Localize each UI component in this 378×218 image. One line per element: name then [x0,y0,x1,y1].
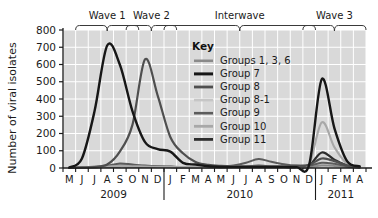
x-axis-tick-label: J [244,174,248,185]
legend-item-label: Group 9 [220,107,260,118]
x-axis-tick-label: J [92,174,96,185]
x-axis-tick-label: J [231,174,235,185]
x-axis-tick-label: A [356,174,363,185]
viral-isolates-line-chart: 0100200300400500600700800 MJJASONDJFMAMJ… [0,0,378,218]
x-axis-tick-label: J [319,174,323,185]
x-axis-tick-label: N [293,174,300,185]
y-axis-tick-label: 100 [36,144,56,156]
legend-item-label: Group 8-1 [220,94,270,105]
y-axis-tick-label: 300 [36,110,56,122]
year-label: 2011 [327,188,354,200]
wave-label: Wave 2 [133,10,170,21]
year-label: 2009 [100,188,127,200]
x-axis-tick-label: D [305,174,313,185]
x-axis-tick-label: A [205,174,212,185]
x-axis-tick-label: M [343,174,352,185]
x-axis-tick-label: A [255,174,262,185]
y-axis-tick-label: 0 [49,162,56,174]
legend-title: Key [192,40,214,52]
legend-item-label: Group 7 [220,68,260,79]
year-label: 2010 [226,188,253,200]
legend-item-label: Groups 1, 3, 6 [220,55,291,66]
y-axis-tick-label: 200 [36,127,56,139]
x-axis-tick-label: S [117,174,123,185]
wave-label: Wave 1 [89,10,126,21]
wave-label: Wave 3 [316,10,353,21]
y-axis-tick-label: 500 [36,75,56,87]
y-axis-title: Number of viral isolates [6,42,19,174]
x-axis-tick-label: F [332,174,338,185]
chart-figure: 0100200300400500600700800 MJJASONDJFMAMJ… [0,0,378,218]
x-axis-tick-label: N [141,174,148,185]
y-axis-tick-label: 800 [36,24,56,36]
y-axis-tick-label: 700 [36,41,56,53]
x-axis-tick-label: D [154,174,162,185]
y-axis-tick-label: 600 [36,58,56,70]
x-axis-tick-label: M [65,174,74,185]
x-axis-tick-label: J [168,174,172,185]
x-axis-tick-label: M [216,174,225,185]
legend-item-label: Group 10 [220,121,266,132]
x-axis-tick-label: O [129,174,137,185]
x-axis-tick-label: M [191,174,200,185]
y-axis-tick-label: 400 [36,93,56,105]
legend-item-label: Group 8 [220,81,260,92]
legend-item-label: Group 11 [220,134,266,145]
x-axis-tick-label: O [280,174,288,185]
x-axis-tick-label: J [79,174,83,185]
wave-label: Interwave [215,10,265,21]
x-axis-tick-label: A [104,174,111,185]
x-axis-tick-label: F [180,174,186,185]
x-axis-tick-label: S [268,174,274,185]
